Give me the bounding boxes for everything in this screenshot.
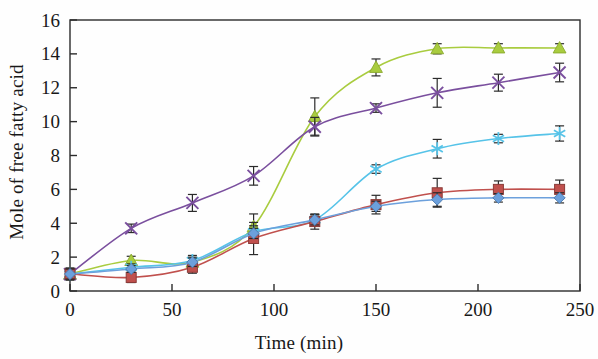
series-line: [70, 189, 560, 278]
x-tick-label: 250: [566, 299, 595, 320]
error-bars: [66, 63, 565, 279]
y-tick-label: 4: [51, 213, 61, 234]
data-point-marker: [370, 61, 383, 72]
plot-area: 0246810121416050100150200250: [0, 0, 598, 359]
series-purple-x: [64, 63, 566, 280]
y-tick-label: 12: [41, 77, 60, 98]
x-tick-label: 150: [362, 299, 391, 320]
series-line: [70, 133, 560, 274]
x-tick-label: 50: [163, 299, 182, 320]
series-line: [70, 47, 560, 274]
error-bars: [66, 44, 565, 280]
chart-figure: Mole of free fatty acid 0246810121416050…: [0, 0, 598, 359]
data-point-marker: [432, 142, 443, 155]
x-tick-label: 0: [65, 299, 75, 320]
series-green-triangle: [64, 42, 566, 280]
y-tick-label: 2: [51, 247, 61, 268]
x-tick-label: 200: [464, 299, 493, 320]
series-cyan-asterisk: [64, 126, 565, 281]
series-line: [70, 198, 560, 274]
axes: [70, 20, 580, 291]
tick-labels: 0246810121416050100150200250: [41, 10, 594, 321]
x-axis-label: Time (min): [0, 332, 598, 354]
data-series-group: [64, 42, 566, 283]
error-bars: [66, 126, 565, 279]
y-tick-label: 16: [41, 10, 60, 31]
y-tick-label: 14: [41, 43, 61, 64]
x-tick-label: 100: [260, 299, 289, 320]
y-tick-label: 6: [51, 179, 61, 200]
y-tick-label: 10: [41, 111, 60, 132]
y-tick-label: 8: [51, 145, 61, 166]
y-tick-label: 0: [51, 281, 61, 302]
